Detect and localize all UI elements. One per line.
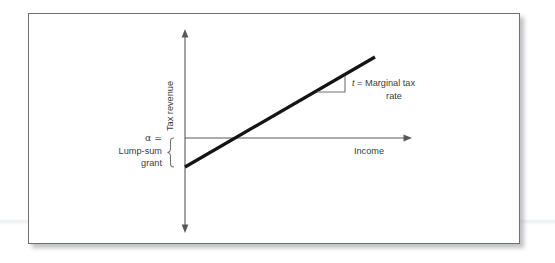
lump-sum-label-line1: Lump-sum [119, 146, 163, 156]
x-axis-arrow-right-icon [404, 135, 413, 142]
lump-sum-label-line2: grant [141, 158, 162, 168]
tax-revenue-diagram: Tax revenue Income α = Lump-sum grant t … [29, 14, 519, 243]
alpha-symbol-label: α = [145, 132, 162, 143]
marginal-tax-rate-line1: t = Marginal tax [352, 78, 415, 88]
y-axis [182, 29, 189, 233]
lump-sum-brace-path [168, 138, 175, 167]
x-axis-label: Income [354, 146, 384, 156]
y-axis-arrow-up-icon [182, 29, 189, 38]
marginal-tax-rate-line2: rate [386, 91, 402, 101]
y-axis-arrow-down-icon [182, 225, 189, 234]
figure-frame: Tax revenue Income α = Lump-sum grant t … [28, 13, 520, 244]
marginal-tax-rate-annotation: t = Marginal tax rate [352, 78, 415, 101]
slope-equals-text: = Marginal tax [355, 78, 416, 88]
lump-sum-grant-annotation: α = Lump-sum grant [119, 132, 163, 168]
figure-page: Tax revenue Income α = Lump-sum grant t … [0, 0, 555, 263]
lump-sum-brace [168, 138, 175, 167]
y-axis-label: Tax revenue [165, 81, 175, 131]
tax-revenue-line [185, 57, 375, 167]
x-axis [185, 135, 412, 142]
